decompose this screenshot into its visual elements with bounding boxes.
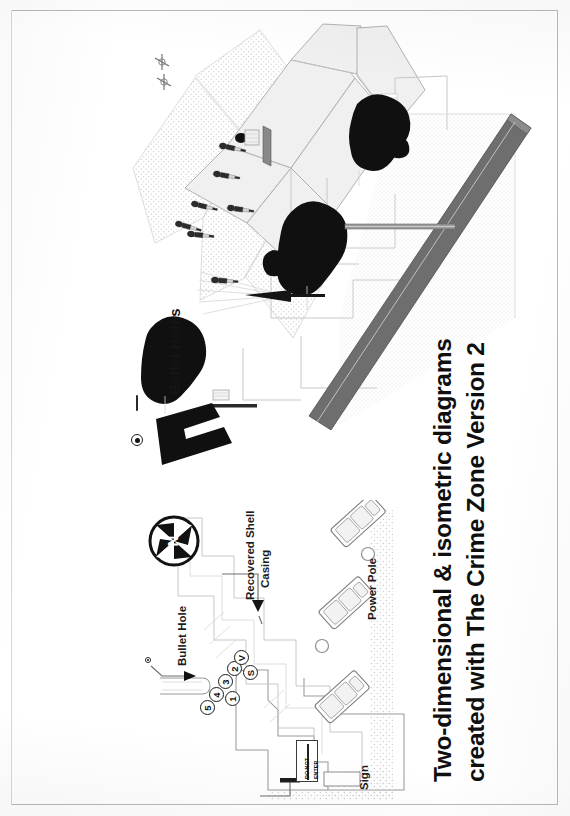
- plan-label-sign: Sign: [358, 765, 370, 790]
- evidence-marker-3[interactable]: 3: [218, 674, 233, 689]
- plan-label-bullet-hole: Bullet Hole: [176, 606, 188, 666]
- plan-vehicle-3: [314, 670, 370, 724]
- north-arrow-compass-rose: N: [148, 515, 200, 567]
- plan-label-recovered-shell-casing-line2: Casing: [259, 550, 271, 588]
- plan-power-pole-2: [316, 640, 329, 653]
- plan-label-power-pole: Power Pole: [366, 558, 378, 620]
- evidence-marker-v-label: V: [237, 654, 247, 660]
- legend-bullet-holes-label: Bullet Holes: [166, 308, 183, 395]
- evidence-marker-s[interactable]: S: [243, 665, 258, 680]
- evidence-marker-4-label: 4: [212, 692, 222, 697]
- evidence-marker-4[interactable]: 4: [209, 687, 224, 702]
- do-not-enter-line1: DO NOT: [304, 758, 310, 779]
- evidence-marker-1[interactable]: 1: [225, 691, 240, 706]
- page-canvas: Bullet Holes: [0, 0, 570, 816]
- evidence-marker-1-label: 1: [228, 696, 238, 701]
- iso-dark-l-object: [150, 395, 270, 485]
- plan-bullet-hole-leader: [145, 657, 196, 681]
- evidence-marker-2-label: 2: [230, 666, 240, 671]
- do-not-enter-line2: ENTER: [313, 761, 319, 779]
- bullet-hole-icon: [131, 434, 143, 446]
- evidence-marker-s-label: S: [246, 669, 256, 675]
- compass-north-letter: N: [164, 536, 181, 547]
- evidence-marker-5[interactable]: 5: [200, 700, 215, 715]
- page-title-line-2: created with The Crime Zone Version 2: [462, 342, 490, 782]
- evidence-marker-5-label: 5: [203, 705, 213, 710]
- plan-label-recovered-shell-casing-line1: Recovered Shell: [244, 511, 256, 600]
- legend-dash-icon: [136, 395, 138, 411]
- plan-shell-casing-marker: [222, 574, 264, 624]
- evidence-marker-3-label: 3: [221, 679, 231, 684]
- evidence-marker-v[interactable]: V: [234, 650, 249, 665]
- page-title-line-1: Two-dimensional & isometric diagrams: [429, 339, 457, 782]
- do-not-enter-sign: DO NOT ENTER: [296, 740, 318, 782]
